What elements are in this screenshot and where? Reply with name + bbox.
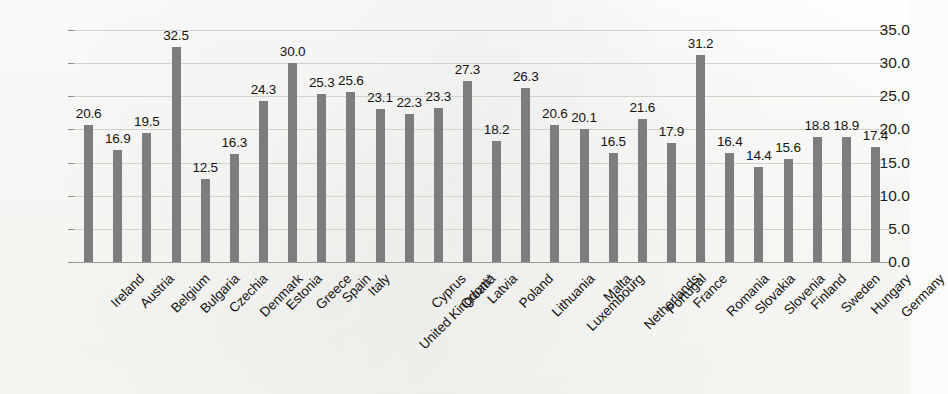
bar-value-label: 16.5 [600,134,625,149]
bar-value-label: 26.3 [513,69,538,84]
bar-value-label: 24.3 [251,82,276,97]
y-axis-tick-label: 20.0 [864,120,910,138]
y-axis-tick-label: 35.0 [864,21,910,39]
y-axis-tick-label: 10.0 [864,187,910,205]
gridline [74,30,890,31]
bar [172,47,181,262]
y-axis-tick-label: 30.0 [864,54,910,72]
bar-value-label: 31.2 [688,36,713,51]
bar [259,101,268,262]
bar [434,108,443,262]
bar-value-label: 23.1 [367,90,392,105]
y-axis-tick-label: 25.0 [864,87,910,105]
bar-value-label: 17.9 [659,124,684,139]
x-axis-category-label: Italy [365,271,393,299]
bar-value-label: 14.4 [746,148,771,163]
bar-value-label: 12.5 [192,160,217,175]
bar [405,114,414,262]
bar-value-label: 15.6 [775,140,800,155]
y-axis-tick-label: 0.0 [864,253,910,271]
bar-value-label: 18.8 [804,118,829,133]
bar-value-label: 22.3 [396,95,421,110]
bar [492,141,501,262]
bar-value-label: 25.6 [338,73,363,88]
y-axis-tick-label: 15.0 [864,154,910,172]
bar [521,88,530,262]
bar [201,179,210,262]
bar [230,154,239,262]
bar [376,109,385,262]
bar [696,55,705,262]
bar [288,63,297,262]
bar [346,92,355,262]
bar-value-label: 32.5 [163,28,188,43]
y-axis-tick-mark [68,262,74,263]
y-axis-tick-mark [68,229,74,230]
bar-value-label: 16.9 [105,131,130,146]
x-axis-category-label: Lithuania [548,271,597,320]
gridline [74,229,890,230]
y-axis-tick-label: 5.0 [864,220,910,238]
plot-area: 20.616.919.532.512.516.324.330.025.325.6… [74,30,890,262]
bar [784,159,793,262]
bar-value-label: 20.6 [76,106,101,121]
gridline [74,96,890,97]
y-axis-tick-mark [68,129,74,130]
bar [842,137,851,262]
bar-value-label: 16.3 [222,135,247,150]
bar [725,153,734,262]
bar-value-label: 27.3 [455,62,480,77]
bar-value-label: 16.4 [717,134,742,149]
x-axis-category-label: Poland [516,271,556,311]
gridline [74,129,890,130]
bar-value-label: 18.2 [484,122,509,137]
bar [813,137,822,262]
bar-value-label: 20.1 [571,110,596,125]
bar-value-label: 25.3 [309,75,334,90]
bar-value-label: 20.6 [542,106,567,121]
y-axis-tick-mark [68,30,74,31]
bar-value-label: 23.3 [426,89,451,104]
bar [638,119,647,262]
bar-value-label: 18.9 [834,118,859,133]
bar [667,143,676,262]
bar [550,125,559,262]
bar-value-label: 30.0 [280,44,305,59]
y-axis-tick-mark [68,96,74,97]
bar [580,129,589,262]
bar-value-label: 19.5 [134,114,159,129]
x-axis-category-labels: IrelandAustriaBelgiumBulgariaCzechiaDenm… [0,262,910,394]
gridline [74,196,890,197]
bar [609,153,618,262]
y-axis-tick-mark [68,63,74,64]
y-axis-tick-mark [68,196,74,197]
bar-value-label: 21.6 [630,100,655,115]
bar [84,125,93,262]
bar [317,94,326,262]
bar [142,133,151,262]
bar [754,167,763,262]
y-axis-tick-mark [68,163,74,164]
bar [113,150,122,262]
bar [463,81,472,262]
gridline [74,63,890,64]
